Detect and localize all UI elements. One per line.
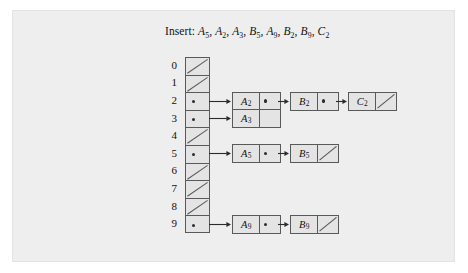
index-label-2: 2 <box>161 94 177 106</box>
null-slash-icon <box>186 58 209 75</box>
node-key-label: C2 <box>349 93 376 110</box>
null-slash-icon <box>186 76 209 93</box>
caption-separator: , <box>295 25 301 37</box>
null-slash-icon <box>376 93 396 110</box>
index-label-1: 1 <box>161 76 177 88</box>
table-slot-8 <box>186 199 209 217</box>
null-slash-icon <box>186 128 209 145</box>
chain-node-B5: B5 <box>290 144 339 163</box>
node-key-label: A9 <box>233 216 260 233</box>
node-next-pointer <box>260 216 280 233</box>
index-label-4: 4 <box>161 129 177 141</box>
node-pointer-dot <box>322 99 325 102</box>
index-label-9: 9 <box>161 217 177 229</box>
slot-to-node-arrow-3 <box>209 114 231 123</box>
table-slot-4 <box>186 128 209 146</box>
chain-node-A5: A5 <box>232 144 281 163</box>
caption-key-B2: B2 <box>283 25 294 37</box>
node-key-label: B2 <box>291 93 318 110</box>
table-slot-7 <box>186 181 209 199</box>
figure-caption: Insert: A5, A2, A3, B5, A9, B2, B9, C2 <box>165 25 329 37</box>
caption-separator: , <box>312 25 318 37</box>
hash-table-array <box>185 57 210 233</box>
node-key-label: A3 <box>233 110 260 127</box>
caption-key-B9: B9 <box>301 25 312 37</box>
node-key-label: A2 <box>233 93 260 110</box>
index-label-6: 6 <box>161 164 177 176</box>
caption-key-A2: A2 <box>215 25 226 37</box>
table-slot-6 <box>186 164 209 182</box>
null-slash-icon <box>186 181 209 198</box>
chain-node-A2: A2 <box>232 92 281 111</box>
index-label-5: 5 <box>161 147 177 159</box>
table-slot-0 <box>186 58 209 76</box>
slot-to-node-arrow-2 <box>209 97 231 106</box>
node-null-pointer <box>376 93 396 110</box>
caption-key-A5: A5 <box>198 25 209 37</box>
caption-prefix: Insert: <box>165 25 198 37</box>
slot-pointer-dot <box>192 100 195 103</box>
table-slot-5 <box>186 146 209 164</box>
chain-node-C2: C2 <box>348 92 397 111</box>
table-slot-1 <box>186 76 209 94</box>
null-slash-icon <box>186 199 209 216</box>
slot-pointer-dot <box>192 224 195 227</box>
chain-node-B2: B2 <box>290 92 339 111</box>
node-next-pointer <box>318 93 338 110</box>
chain-node-B9: B9 <box>290 215 339 234</box>
null-slash-icon <box>186 164 209 181</box>
caption-key-B5: B5 <box>249 25 260 37</box>
node-key-label: A5 <box>233 145 260 162</box>
caption-key-A3: A3 <box>232 25 243 37</box>
index-label-0: 0 <box>161 59 177 71</box>
node-null-pointer <box>318 216 338 233</box>
chain-node-A9: A9 <box>232 215 281 234</box>
slot-pointer-dot <box>192 118 195 121</box>
null-slash-icon <box>318 216 338 233</box>
node-next-pointer <box>260 93 280 110</box>
slot-pointer-dot <box>192 153 195 156</box>
node-next-pointer <box>260 145 280 162</box>
node-key-label: B9 <box>291 216 318 233</box>
table-slot-2 <box>186 93 209 111</box>
node-pointer-dot <box>264 152 267 155</box>
null-slash-icon <box>318 145 338 162</box>
index-label-7: 7 <box>161 182 177 194</box>
caption-key-C2: C2 <box>318 25 330 37</box>
node-pointer-dot <box>264 99 267 102</box>
slot-to-node-arrow-9 <box>209 220 231 229</box>
table-slot-9 <box>186 216 209 234</box>
index-label-8: 8 <box>161 200 177 212</box>
node-empty-cell <box>260 110 280 127</box>
node-key-label: B5 <box>291 145 318 162</box>
node-null-pointer <box>318 145 338 162</box>
figure-panel: Insert: A5, A2, A3, B5, A9, B2, B9, C2 0… <box>12 10 455 262</box>
slot-to-node-arrow-5 <box>209 149 231 158</box>
caption-key-A9: A9 <box>266 25 277 37</box>
node-pointer-dot <box>264 223 267 226</box>
chain-node-A3: A3 <box>232 109 281 128</box>
index-label-3: 3 <box>161 112 177 124</box>
table-slot-3 <box>186 111 209 129</box>
